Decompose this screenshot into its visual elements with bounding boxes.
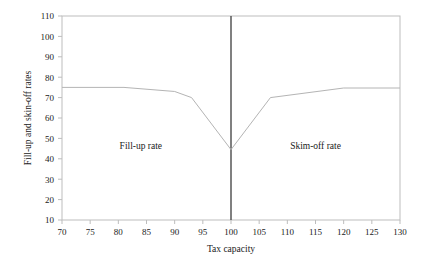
y-tick-label: 70	[45, 93, 55, 103]
x-tick-label: 125	[365, 227, 379, 237]
y-tick-label: 90	[45, 52, 55, 62]
annotation-label-0: Fill-up rate	[120, 141, 162, 151]
y-axis-title: Fill-up and skin-off rates	[23, 70, 33, 165]
x-tick-label: 80	[114, 227, 124, 237]
y-tick-label: 40	[45, 154, 55, 164]
annotation-label-1: Skim-off rate	[290, 141, 341, 151]
y-tick-label: 100	[41, 32, 55, 42]
x-tick-label: 85	[142, 227, 152, 237]
y-tick-label: 20	[45, 195, 55, 205]
x-tick-label: 90	[170, 227, 180, 237]
y-tick-label: 60	[45, 113, 55, 123]
chart-background	[0, 0, 423, 265]
y-tick-label: 110	[41, 11, 55, 21]
line-chart: 102030405060708090100110 707580859095100…	[0, 0, 423, 265]
y-tick-label: 50	[45, 134, 55, 144]
y-tick-label: 10	[45, 215, 55, 225]
y-tick-label: 30	[45, 175, 55, 185]
x-tick-label: 95	[198, 227, 208, 237]
x-tick-label: 115	[309, 227, 323, 237]
chart-figure: 102030405060708090100110 707580859095100…	[0, 0, 423, 265]
x-tick-label: 120	[337, 227, 351, 237]
x-tick-label: 110	[281, 227, 295, 237]
x-tick-label: 70	[58, 227, 68, 237]
x-tick-label: 75	[86, 227, 96, 237]
x-tick-label: 100	[224, 227, 238, 237]
x-tick-label: 130	[393, 227, 407, 237]
x-tick-label: 105	[252, 227, 266, 237]
x-axis-title: Tax capacity	[207, 244, 255, 254]
y-tick-label: 80	[45, 73, 55, 83]
